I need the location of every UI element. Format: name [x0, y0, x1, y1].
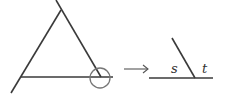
- triangle-angle-diagram: s t: [0, 0, 228, 97]
- triangle: [11, 0, 113, 93]
- arrow-icon: [124, 65, 148, 73]
- angle-label-t: t: [202, 61, 208, 76]
- angle-label-s: s: [171, 61, 178, 76]
- highlight-circle: [90, 68, 110, 88]
- triangle-right-side-extended: [56, 0, 101, 77]
- triangle-left-side: [11, 10, 61, 93]
